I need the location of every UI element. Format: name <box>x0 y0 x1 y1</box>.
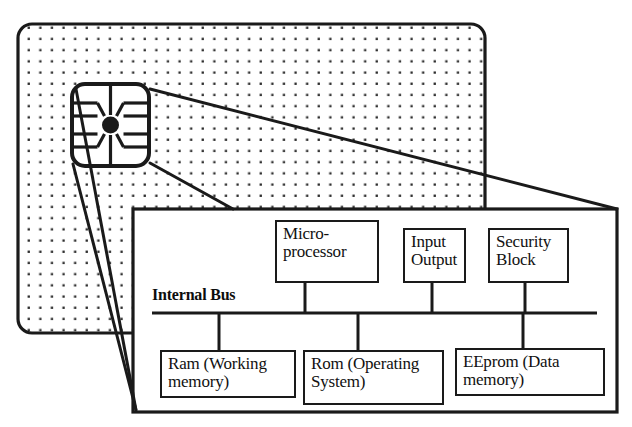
block-ram-label: Ram (Working memory) <box>168 355 267 392</box>
block-security-block: Security Block <box>488 228 569 283</box>
block-microprocessor-label: Micro- processor <box>283 225 346 262</box>
block-microprocessor: Micro- processor <box>275 220 379 283</box>
block-rom-label: Rom (Operating System) <box>311 355 419 392</box>
chip-center-pad <box>102 117 119 134</box>
block-input-output: Input Output <box>403 228 466 283</box>
internal-bus-label: Internal Bus <box>152 286 235 304</box>
block-eeprom-label: EEprom (Data memory) <box>463 353 559 390</box>
block-eeprom: EEprom (Data memory) <box>455 348 605 396</box>
block-ram: Ram (Working memory) <box>160 350 296 398</box>
diagram-canvas: Smart card internal architecture <box>0 0 632 427</box>
block-security-block-label: Security Block <box>496 233 551 270</box>
block-rom: Rom (Operating System) <box>303 350 444 405</box>
block-input-output-label: Input Output <box>411 233 457 270</box>
